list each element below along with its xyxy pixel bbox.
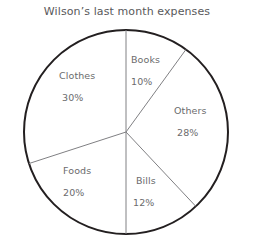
- slice-label-bills: Bills: [136, 175, 156, 186]
- pie-chart-figure: Wilson’s last month expenses Books10%Oth…: [0, 0, 254, 251]
- slice-value-foods: 20%: [63, 187, 84, 198]
- pie-chart-canvas: [0, 0, 254, 251]
- slice-label-clothes: Clothes: [59, 70, 95, 81]
- slice-label-foods: Foods: [63, 165, 91, 176]
- slice-value-bills: 12%: [133, 197, 154, 208]
- slice-label-books: Books: [131, 54, 160, 65]
- slice-value-others: 28%: [177, 127, 198, 138]
- slice-value-clothes: 30%: [62, 92, 83, 103]
- slice-label-others: Others: [174, 105, 207, 116]
- slice-value-books: 10%: [131, 76, 152, 87]
